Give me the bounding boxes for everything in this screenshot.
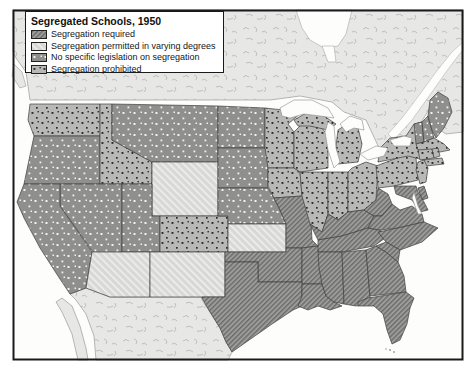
state-WI xyxy=(294,124,328,172)
map-title: Segregated Schools, 1950 xyxy=(31,15,218,27)
legend-label-prohibited: Segregation prohibited xyxy=(51,64,142,75)
legend-swatch-permitted xyxy=(31,42,47,51)
legend-item-no-legislation: No specific legislation on segregation xyxy=(31,52,218,64)
state-NM xyxy=(150,252,225,297)
state-AZ xyxy=(86,252,150,297)
legend-swatch-no-legislation xyxy=(31,53,47,62)
state-WY xyxy=(152,162,218,216)
state-IA xyxy=(268,168,302,198)
legend-item-prohibited: Segregation prohibited xyxy=(31,64,218,76)
state-OR xyxy=(24,136,100,184)
legend-label-required: Segregation required xyxy=(51,29,135,40)
map-legend: Segregated Schools, 1950 Segregation req… xyxy=(25,11,224,73)
legend-swatch-prohibited xyxy=(31,65,47,74)
state-KS xyxy=(228,224,286,252)
state-IN xyxy=(328,172,348,220)
state-CT xyxy=(418,149,434,160)
legend-item-permitted: Segregation permitted in varying degrees xyxy=(31,41,218,53)
state-CO xyxy=(160,216,228,252)
legend-label-no-legislation: No specific legislation on segregation xyxy=(51,52,200,63)
legend-swatch-required xyxy=(31,30,47,39)
map-figure: Segregated Schools, 1950 Segregation req… xyxy=(0,0,471,367)
state-AL xyxy=(342,250,370,306)
state-SD xyxy=(218,148,268,188)
legend-label-permitted: Segregation permitted in varying degrees xyxy=(51,41,216,52)
state-WA xyxy=(28,104,100,136)
state-ND xyxy=(218,106,265,148)
legend-item-required: Segregation required xyxy=(31,29,218,41)
